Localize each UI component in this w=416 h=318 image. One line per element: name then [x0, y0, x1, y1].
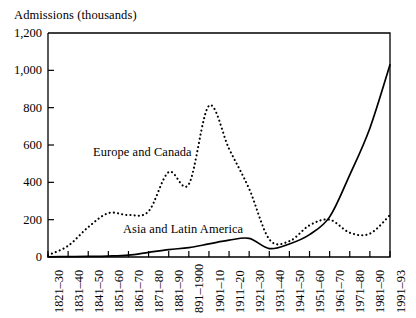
x-axis-tick-label: 1971–80: [354, 270, 366, 313]
x-axis-tick-label: 1981–90: [374, 270, 386, 313]
y-axis-tick-label: 400: [0, 176, 42, 189]
x-axis-tick-label: 1921–30: [254, 270, 266, 313]
x-axis-tick-label: 1841–50: [93, 270, 105, 313]
y-axis-tick-label: 1,200: [0, 27, 42, 40]
x-axis-tick-label: 1911–20: [234, 270, 246, 313]
chart-figure: Admissions (thousands) 02004006008001,00…: [0, 0, 416, 318]
x-axis-tick-label: 1881–90: [173, 270, 185, 313]
y-axis-tick-label: 800: [0, 102, 42, 115]
series-annotation-1: Asia and Latin America: [123, 223, 243, 236]
x-axis-tick-label: 1991–93: [395, 270, 407, 313]
y-axis-tick-label: 200: [0, 214, 42, 227]
series-annotation-0: Europe and Canada: [93, 146, 192, 159]
x-axis-tick-label: 1821–30: [53, 270, 65, 313]
x-axis-tick-label: 891–1900: [193, 264, 205, 313]
y-axis-tick-label: 1,000: [0, 64, 42, 77]
y-axis-tick-label: 600: [0, 139, 42, 152]
x-axis-tick-label: 1861–70: [133, 270, 145, 313]
x-axis-tick-label: 1901–10: [214, 270, 226, 313]
x-axis-tick-label: 1871–80: [153, 270, 165, 313]
x-axis-tick-label: 1951–60: [314, 270, 326, 313]
x-axis-tick-label: 1851–60: [113, 270, 125, 313]
x-axis-tick-label: 1961–70: [334, 270, 346, 313]
x-axis-tick-label: 1931–40: [274, 270, 286, 313]
x-axis-tick-label: 1831–40: [73, 270, 85, 313]
y-axis-tick-label: 0: [0, 251, 42, 264]
x-axis-tick-label: 1941–50: [294, 270, 306, 313]
